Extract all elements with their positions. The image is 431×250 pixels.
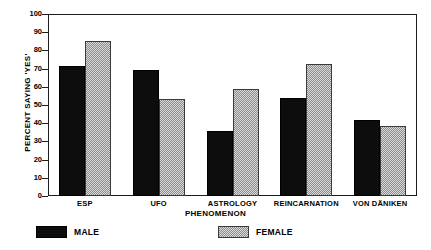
x-axis-label-reincarnation: REINCARNATION [274,199,339,208]
x-axis-label-astrology: ASTROLOGY [208,199,257,208]
chart-legend: MALE FEMALE [0,226,431,244]
bar-astrology-male [207,131,233,196]
x-axis-label-von-däniken: VON DÄNIKEN [353,199,408,208]
legend-swatch-male-icon [36,226,67,238]
bar-von-däniken-male [354,120,380,196]
x-axis-label-ufo: UFO [150,199,166,208]
bar-astrology-female [233,89,259,196]
y-axis-tick-label: 60 [16,83,42,91]
legend-label-female: FEMALE [256,227,293,237]
y-axis-tick-mark [42,196,48,197]
y-axis-tick-label: 0 [16,192,42,200]
y-axis-tick-label: 90 [16,28,42,36]
bar-esp-female [85,41,111,196]
bar-von-däniken-female [380,126,406,196]
legend-entry-male: MALE [36,226,99,238]
y-axis-tick-label: 30 [16,138,42,146]
x-axis-title: PHENOMENON [0,209,431,218]
bar-ufo-female [159,99,185,196]
y-axis-tick-label: 50 [16,101,42,109]
bar-ufo-male [133,70,159,196]
legend-entry-female: FEMALE [218,226,293,238]
bar-reincarnation-male [280,98,306,196]
y-axis-tick-label: 70 [16,65,42,73]
bar-esp-male [59,66,85,196]
bars-container [48,14,417,196]
y-axis-tick-label: 100 [16,10,42,18]
y-axis-tick-label: 80 [16,47,42,55]
legend-label-male: MALE [74,227,99,237]
bar-chart-figure: PERCENT SAYING 'YES' 1009080706050403020… [0,0,431,250]
bar-reincarnation-female [306,64,332,196]
y-axis-tick-label: 40 [16,119,42,127]
y-axis-tick-label: 10 [16,174,42,182]
x-axis-label-esp: ESP [77,199,93,208]
y-axis-tick-label: 20 [16,156,42,164]
legend-swatch-female-icon [218,226,249,238]
